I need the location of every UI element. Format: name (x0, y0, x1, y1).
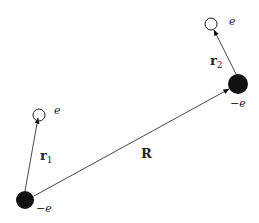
diagram-canvas: e e −e −e r1 r2 R (0, 0, 259, 223)
vector-R-arrow (34, 89, 229, 196)
vector-r1-subscript: 1 (47, 155, 53, 165)
vector-r1-arrow (25, 118, 38, 191)
electron-2-circle-icon (205, 18, 217, 30)
nucleus-1-charge-label: −e (36, 202, 52, 215)
electron-2-charge-label: e (229, 15, 236, 28)
vector-r2-label: r2 (210, 53, 223, 70)
vector-R-label: R (141, 146, 152, 161)
electron-1-charge-label: e (54, 104, 61, 117)
nucleus-2-dot-icon (228, 74, 248, 94)
electron-1-circle-icon (33, 109, 45, 121)
nucleus-2-charge-label: −e (230, 97, 246, 110)
nucleus-1-dot-icon (16, 191, 34, 209)
vector-r1-label: r1 (40, 148, 53, 165)
vector-r2-subscript: 2 (217, 60, 223, 70)
